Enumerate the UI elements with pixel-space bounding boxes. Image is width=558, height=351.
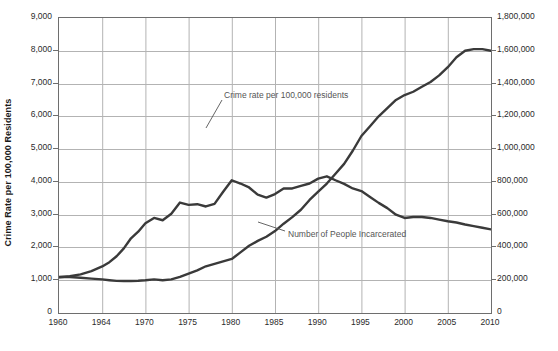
- y-axis-right-tickmark: [491, 214, 496, 215]
- y-axis-left-tick: 0: [0, 307, 52, 316]
- x-axis-tick: 1985: [254, 318, 294, 327]
- x-axis-tick: 1975: [168, 318, 208, 327]
- y-axis-right-tickmark: [491, 181, 496, 182]
- crime-incarceration-chart: Crime Rate per 100,000 Residents Number …: [0, 0, 558, 351]
- y-axis-right-tick: 400,000: [497, 241, 557, 250]
- y-axis-left-tickmark: [53, 279, 58, 280]
- x-axis-tick: 2005: [427, 318, 467, 327]
- y-axis-left-tick: 1,000: [0, 274, 52, 283]
- x-axis-tick: 1960: [38, 318, 78, 327]
- y-axis-left-tickmark: [53, 246, 58, 247]
- y-axis-left-tick: 8,000: [0, 45, 52, 54]
- y-axis-left-tickmark: [53, 50, 58, 51]
- x-axis-tick: 1964: [81, 318, 121, 327]
- y-axis-left-tickmark: [53, 115, 58, 116]
- x-axis-tick: 1995: [340, 318, 380, 327]
- y-axis-left-tick: 7,000: [0, 78, 52, 87]
- y-axis-left-tickmark: [53, 214, 58, 215]
- y-axis-left-tickmark: [53, 181, 58, 182]
- y-axis-right-tick: 0: [497, 307, 557, 316]
- y-axis-right-tickmark: [491, 115, 496, 116]
- series-annotation-1: Crime rate per 100,000 residents: [224, 91, 348, 100]
- y-axis-right-tick: 1,400,000: [497, 78, 557, 87]
- plot-area: [58, 17, 492, 314]
- y-axis-right-tickmark: [491, 50, 496, 51]
- y-axis-right-tickmark: [491, 279, 496, 280]
- y-axis-left-tick: 5,000: [0, 143, 52, 152]
- y-axis-right-tick: 600,000: [497, 209, 557, 218]
- y-axis-left-tick: 3,000: [0, 209, 52, 218]
- y-axis-right-tickmark: [491, 246, 496, 247]
- x-axis-tick: 2010: [470, 318, 510, 327]
- x-axis-tick: 1970: [124, 318, 164, 327]
- y-axis-left-tick: 4,000: [0, 176, 52, 185]
- series-line-2: [59, 49, 491, 281]
- series-lines: [59, 18, 491, 313]
- y-axis-left-tickmark: [53, 148, 58, 149]
- x-axis-tick: 2000: [384, 318, 424, 327]
- x-axis-tick: 1990: [297, 318, 337, 327]
- y-axis-right-tick: 200,000: [497, 274, 557, 283]
- y-axis-left-tick: 2,000: [0, 241, 52, 250]
- series-annotation-2: Number of People Incarcerated: [288, 230, 406, 239]
- y-axis-right-tickmark: [491, 83, 496, 84]
- y-axis-left-tick: 6,000: [0, 110, 52, 119]
- y-axis-right-tick: 1,600,000: [497, 45, 557, 54]
- y-axis-right-tick: 1,200,000: [497, 110, 557, 119]
- y-axis-left-tick: 9,000: [0, 12, 52, 21]
- y-axis-right-tickmark: [491, 148, 496, 149]
- y-axis-right-tick: 1,800,000: [497, 12, 557, 21]
- y-axis-left-tickmark: [53, 83, 58, 84]
- series-line-1: [59, 176, 491, 277]
- x-axis-tick: 1980: [211, 318, 251, 327]
- y-axis-right-tick: 800,000: [497, 176, 557, 185]
- y-axis-right-tick: 1,000,000: [497, 143, 557, 152]
